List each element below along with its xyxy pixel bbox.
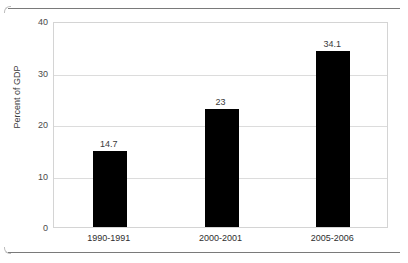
- bar-value-label: 14.7: [100, 139, 118, 149]
- y-axis-tick-labels: 010203040: [0, 22, 48, 228]
- x-axis-category-label: 1990-1991: [87, 233, 130, 243]
- y-axis-tick-label: 10: [4, 172, 48, 181]
- y-axis-tick-label: 20: [4, 121, 48, 130]
- plot-area: [53, 22, 388, 228]
- bar: [93, 151, 127, 227]
- x-axis-category-label: 2005-2006: [311, 233, 354, 243]
- y-axis-title: Percent of GDP: [12, 47, 22, 147]
- bar: [316, 51, 350, 227]
- bar-value-label: 34.1: [323, 39, 341, 49]
- bar-value-label: 23: [215, 97, 225, 107]
- y-axis-tick-label: 40: [4, 18, 48, 27]
- y-axis-tick-label: 0: [4, 224, 48, 233]
- y-axis-tick-label: 30: [4, 69, 48, 78]
- bottom-divider-rule: [8, 252, 400, 253]
- bar: [205, 109, 239, 227]
- chart-figure: 010203040 Percent of GDP 14.71990-199123…: [0, 0, 408, 263]
- x-axis-category-label: 2000-2001: [199, 233, 242, 243]
- top-divider-rule: [8, 8, 400, 9]
